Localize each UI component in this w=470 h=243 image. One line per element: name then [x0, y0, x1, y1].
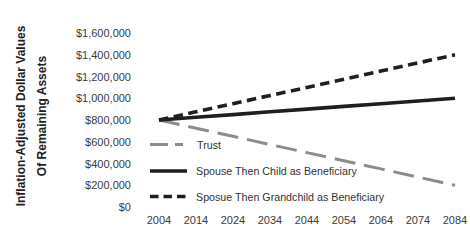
- x-tick-2034: 2034: [258, 214, 282, 226]
- y-tick-1600000: $1,600,000: [76, 27, 131, 39]
- x-tick-2044: 2044: [295, 214, 319, 226]
- x-tick-2074: 2074: [406, 214, 430, 226]
- line-chart-svg: Inflation-Adjusted Dollar Values Of Rema…: [0, 0, 470, 243]
- x-tick-2064: 2064: [369, 214, 393, 226]
- y-tick-600000: $600,000: [85, 136, 131, 148]
- y-tick-800000: $800,000: [85, 114, 131, 126]
- y-tick-200000: $200,000: [85, 179, 131, 191]
- chart-figure: Inflation-Adjusted Dollar Values Of Rema…: [0, 0, 470, 243]
- y-tick-1200000: $1,200,000: [76, 71, 131, 83]
- x-tick-2024: 2024: [221, 214, 245, 226]
- y-tick-0: $0: [119, 201, 131, 213]
- x-tick-2054: 2054: [332, 214, 356, 226]
- legend-label-spouse-then-grandchild: Sposue Then Grandchild as Beneficiary: [196, 191, 385, 203]
- x-tick-2084: 2084: [443, 214, 467, 226]
- y-axis-title: Inflation-Adjusted Dollar Values Of Rema…: [14, 25, 49, 206]
- x-axis-ticks: 2004 2014 2024 2034 2044 2054 2064 2074 …: [147, 214, 467, 226]
- legend-item-trust: Trust: [150, 139, 221, 151]
- x-tick-2014: 2014: [184, 214, 208, 226]
- y-tick-1000000: $1,000,000: [76, 92, 131, 104]
- legend: Trust Spouse Then Child as Beneficiary S…: [150, 139, 385, 203]
- legend-label-trust: Trust: [197, 139, 221, 151]
- legend-label-spouse-then-child: Spouse Then Child as Beneficiary: [196, 165, 357, 177]
- y-axis-title-line2: Of Remaining Assets: [35, 56, 49, 177]
- y-tick-1400000: $1,400,000: [76, 49, 131, 61]
- legend-item-spouse-then-grandchild: Sposue Then Grandchild as Beneficiary: [150, 191, 385, 203]
- x-tick-2004: 2004: [147, 214, 171, 226]
- y-axis-ticks: $1,600,000 $1,400,000 $1,200,000 $1,000,…: [76, 27, 131, 213]
- y-tick-400000: $400,000: [85, 158, 131, 170]
- y-axis-title-line1: Inflation-Adjusted Dollar Values: [14, 25, 28, 206]
- legend-item-spouse-then-child: Spouse Then Child as Beneficiary: [150, 165, 357, 177]
